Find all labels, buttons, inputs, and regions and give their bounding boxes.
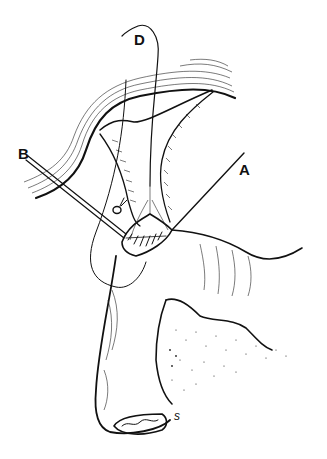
- label-A: A: [239, 162, 250, 177]
- pancreas: [156, 299, 287, 404]
- label-B: B: [18, 146, 29, 161]
- liver-edge: [24, 59, 235, 198]
- annotation-s-mark: s: [174, 410, 180, 422]
- label-D: D: [134, 32, 145, 47]
- surgical-drawing: [0, 0, 327, 459]
- bowel-loop: [96, 230, 302, 434]
- anastomosis: [122, 186, 172, 256]
